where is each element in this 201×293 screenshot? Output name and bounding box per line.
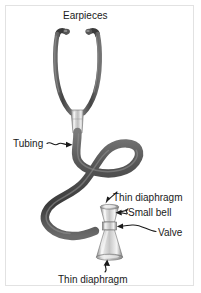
top-diaphragm-disc bbox=[100, 204, 118, 209]
label-earpieces: Earpieces bbox=[63, 10, 107, 21]
leader-thin-diaphragm-bottom bbox=[104, 260, 110, 272]
flexible-tubing bbox=[45, 132, 139, 236]
label-thin-diaphragm-bottom: Thin diaphragm bbox=[58, 274, 127, 285]
label-tubing: Tubing bbox=[13, 138, 43, 149]
valve-stem bbox=[103, 222, 117, 230]
label-small-bell: Small bell bbox=[128, 207, 171, 218]
leader-valve bbox=[117, 223, 156, 231]
bottom-diaphragm-disc bbox=[96, 254, 122, 260]
label-thin-diaphragm-top: Thin diaphragm bbox=[113, 192, 182, 203]
large-bell-cone bbox=[97, 230, 123, 257]
leader-tubing bbox=[47, 142, 73, 148]
stethoscope-figure: Earpieces Tubing Thin diaphragm Small be… bbox=[0, 0, 201, 293]
binaural-tube-right bbox=[84, 34, 100, 113]
label-valve: Valve bbox=[158, 227, 182, 238]
binaural-tube-left bbox=[55, 34, 72, 113]
